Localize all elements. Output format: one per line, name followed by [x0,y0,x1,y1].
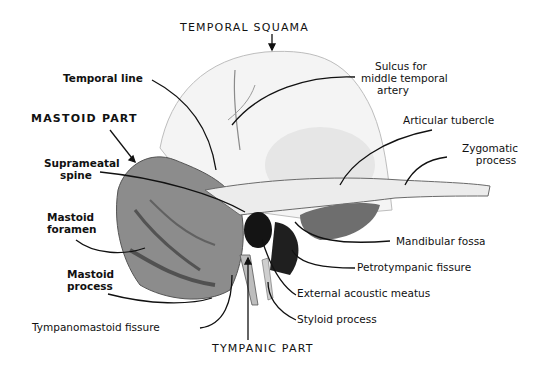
label-mastoid-part: MASTOID PART [31,113,138,125]
label-zygomatic-process: Zygomatic process [450,142,530,166]
label-mastoid-process-line2: process [67,280,114,292]
label-tympanomastoid-fissure: Tympanomastoid fissure [32,321,160,333]
label-zygomatic-line2: process [456,154,536,166]
label-petrotympanic-fissure: Petrotympanic fissure [357,261,471,273]
label-sulcus-line2: middle temporal [361,72,448,84]
label-sulcus-line1: Sulcus for [375,60,462,72]
label-sulcus-line3: artery [377,84,464,96]
label-styloid-process: Styloid process [297,313,377,325]
temporal-bone-illustration [0,0,539,372]
label-mastoid-foramen: Mastoid foramen [47,211,97,235]
label-suprameatal-spine: Suprameatal spine [44,157,120,181]
external-acoustic-meatus-shape [244,212,272,248]
label-zygomatic-line1: Zygomatic [450,142,530,154]
label-mastoid-process-line1: Mastoid [67,268,114,280]
label-temporal-line: Temporal line [63,72,143,84]
label-temporal-squama: TEMPORAL SQUAMA [180,22,309,34]
label-mastoid-foramen-line2: foramen [47,223,97,235]
label-articular-tubercle: Articular tubercle [403,114,494,126]
label-mandibular-fossa: Mandibular fossa [396,235,486,247]
label-mastoid-process: Mastoid process [67,268,114,292]
label-sulcus-middle-temporal-artery: Sulcus for middle temporal artery [375,60,462,96]
label-suprameatal-line1: Suprameatal [44,157,120,169]
label-tympanic-part: TYMPANIC PART [212,343,314,355]
label-external-acoustic-meatus: External acoustic meatus [297,287,430,299]
label-suprameatal-line2: spine [60,169,136,181]
label-mastoid-foramen-line1: Mastoid [47,211,97,223]
